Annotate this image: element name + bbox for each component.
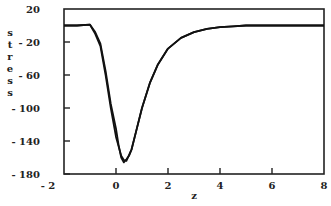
series-line-2 — [64, 25, 324, 163]
series-line-1 — [64, 25, 324, 161]
svg-text:e: e — [7, 63, 13, 74]
svg-text:t: t — [8, 39, 13, 50]
svg-text:s: s — [7, 75, 13, 86]
svg-text:s: s — [7, 27, 13, 38]
x-tick-label: 2 — [165, 180, 172, 191]
y-axis-ticks: 20- 20- 60- 100- 140- 180 — [11, 4, 70, 180]
y-axis-label: stress — [7, 27, 14, 98]
x-tick-label: - 2 — [41, 180, 56, 191]
svg-text:r: r — [7, 51, 13, 62]
y-tick-label: - 140 — [11, 136, 40, 147]
y-tick-label: - 100 — [11, 103, 40, 114]
y-tick-label: - 180 — [11, 169, 40, 180]
x-tick-label: 6 — [269, 180, 276, 191]
x-tick-label: 0 — [113, 180, 120, 191]
x-tick-label: 4 — [217, 180, 224, 191]
y-tick-label: - 20 — [18, 37, 40, 48]
plot-frame — [64, 9, 324, 174]
data-series — [64, 25, 324, 163]
x-axis-ticks: - 202468 — [41, 168, 328, 191]
svg-text:s: s — [7, 87, 13, 98]
x-axis-label: z — [191, 190, 197, 201]
x-tick-label: 8 — [321, 180, 328, 191]
stress-chart: stress 20- 20- 60- 100- 140- 180 - 20246… — [0, 0, 331, 206]
y-tick-label: - 60 — [18, 70, 40, 81]
y-tick-label: 20 — [26, 4, 40, 15]
